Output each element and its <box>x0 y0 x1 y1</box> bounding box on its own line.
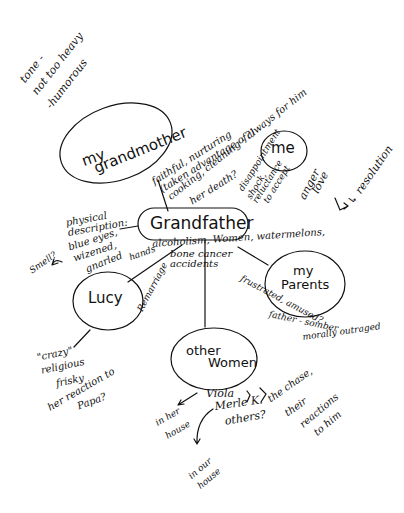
parents-label-my: my <box>293 264 313 278</box>
grandfather-traits-3: accidents <box>170 259 218 270</box>
parents-label: Parents <box>281 278 329 292</box>
lucy-label: Lucy <box>88 291 123 307</box>
other-women-label-2: Women <box>208 356 257 370</box>
grandfather-label: Grandfather <box>150 215 253 233</box>
